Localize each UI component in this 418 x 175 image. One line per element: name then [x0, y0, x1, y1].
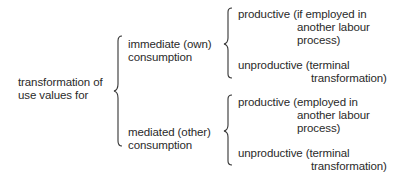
- leaf-line2: another labour: [238, 109, 370, 122]
- leaf-unproductive-other: unproductive (terminal transformation): [238, 147, 387, 173]
- leaf-line1: productive (if employed in: [238, 8, 370, 21]
- lower-brace: [222, 93, 236, 167]
- branch-label-line2: consumption: [128, 51, 212, 64]
- leaf-productive-own: productive (if employed in another labou…: [238, 8, 370, 47]
- leaf-line2: transformation): [238, 160, 387, 173]
- leaf-line1: unproductive (terminal: [238, 59, 387, 72]
- root-label-line2: use values for: [18, 89, 103, 102]
- leaf-line2: another labour: [238, 21, 370, 34]
- root-label: transformation of use values for: [18, 76, 103, 102]
- branch-mediated-consumption: mediated (other) consumption: [128, 126, 211, 152]
- upper-brace: [222, 6, 236, 80]
- leaf-line3: process): [238, 34, 370, 47]
- root-label-line1: transformation of: [18, 76, 103, 89]
- leaf-unproductive-own: unproductive (terminal transformation): [238, 59, 387, 85]
- branch-label-line1: mediated (other): [128, 126, 211, 139]
- leaf-line1: productive (employed in: [238, 96, 370, 109]
- branch-immediate-consumption: immediate (own) consumption: [128, 38, 212, 64]
- leaf-line3: process): [238, 122, 370, 135]
- leaf-line2: transformation): [238, 72, 387, 85]
- leaf-productive-other: productive (employed in another labour p…: [238, 96, 370, 135]
- leaf-line1: unproductive (terminal: [238, 147, 387, 160]
- branch-label-line2: consumption: [128, 139, 211, 152]
- main-brace: [112, 34, 126, 148]
- branch-label-line1: immediate (own): [128, 38, 212, 51]
